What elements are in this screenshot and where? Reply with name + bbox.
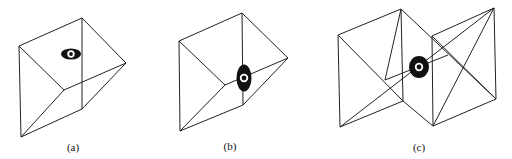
wireframe-edge (179, 41, 225, 85)
wireframe-edge (242, 13, 288, 58)
wireframe-edge (21, 90, 64, 137)
wireframe-edge (180, 85, 225, 131)
wireframe-edge (179, 13, 242, 41)
wireframe-edge (64, 63, 126, 90)
wireframe-edge (338, 9, 401, 35)
wireframe-edge (340, 101, 403, 127)
wireframe-edge (385, 9, 401, 80)
figure-b (179, 13, 288, 131)
wireframe-edge (19, 18, 82, 46)
diagram-canvas: (a) (b) (c) (0, 0, 512, 159)
wireframe-edge (432, 36, 496, 99)
wireframe-edge (403, 101, 433, 126)
wireframe-edge (432, 36, 433, 126)
figure-b-label: (b) (224, 140, 237, 153)
eye-icon (237, 65, 252, 92)
wireframe-edge (433, 8, 494, 126)
wireframe-edge (180, 105, 243, 131)
wireframe-edge (82, 18, 126, 63)
figure-c-label: (c) (413, 141, 426, 154)
figure-a-label: (a) (67, 141, 80, 154)
wireframe-edge (19, 46, 64, 90)
eye-icon (409, 56, 429, 78)
eye-icon (61, 49, 81, 60)
wireframe-edge (494, 8, 496, 99)
wireframe-edge (21, 109, 82, 137)
wireframe-edge (338, 35, 340, 127)
wireframe-edge (433, 99, 496, 126)
figure-a (19, 18, 126, 137)
wireframe-edge (19, 46, 21, 137)
wireframe-edge (225, 58, 288, 85)
wireframe-edge (401, 9, 403, 101)
wireframe-edge (82, 63, 126, 109)
wireframe-edge (179, 41, 180, 131)
figure-c (338, 8, 496, 127)
